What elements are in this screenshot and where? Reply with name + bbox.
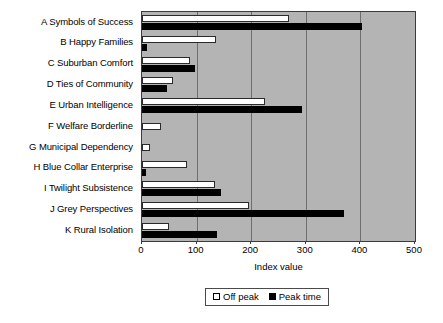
bar-group [142,137,415,158]
x-tick-label: 100 [188,245,204,255]
category-label: F Welfare Borderline [0,115,137,136]
bar-peak [142,210,344,217]
x-tick-label: 200 [242,245,258,255]
x-tick-label: 300 [297,245,313,255]
bar-peak [142,106,302,113]
x-axis-title: Index value [141,261,416,272]
bar-group [142,179,415,200]
bar-peak [142,44,147,51]
bar-group [142,220,415,241]
category-label: E Urban Intelligence [0,94,137,115]
bar-offpeak [142,223,169,230]
category-label: C Suburban Comfort [0,53,137,74]
category-label: D Ties of Community [0,73,137,94]
x-tick-label: 500 [406,245,422,255]
bar-offpeak [142,15,289,22]
bar-peak [142,23,362,30]
bar-offpeak [142,161,187,168]
bar-group [142,33,415,54]
category-label: I Twilight Subsistence [0,178,137,199]
bar-offpeak [142,57,190,64]
bar-group [142,95,415,116]
bar-peak [142,85,167,92]
bar-peak [142,231,217,238]
bar-chart: A Symbols of SuccessB Happy FamiliesC Su… [0,0,443,323]
category-label: B Happy Families [0,32,137,53]
bar-offpeak [142,123,161,130]
bar-offpeak [142,202,249,209]
legend-swatch-offpeak-icon [213,293,220,300]
category-axis: A Symbols of SuccessB Happy FamiliesC Su… [0,11,137,240]
legend-label: Off peak [223,292,259,302]
plot-area [141,11,416,242]
bar-offpeak [142,98,265,105]
legend-entry: Off peak [213,292,259,302]
bar-peak [142,189,221,196]
category-label: K Rural Isolation [0,219,137,240]
bar-offpeak [142,36,216,43]
bar-group [142,74,415,95]
category-label: G Municipal Dependency [0,136,137,157]
x-tick-label: 0 [138,245,143,255]
bar-group [142,158,415,179]
bar-offpeak [142,77,173,84]
category-label: J Grey Perspectives [0,198,137,219]
bar-offpeak [142,144,150,151]
legend-label: Peak time [279,292,321,302]
bars-layer [142,12,415,241]
legend-swatch-peak-icon [269,293,276,300]
category-label: H Blue Collar Enterprise [0,157,137,178]
bar-group [142,54,415,75]
category-label: A Symbols of Success [0,11,137,32]
bar-group [142,199,415,220]
bar-group [142,12,415,33]
legend-entry: Peak time [269,292,321,302]
bar-offpeak [142,181,215,188]
x-axis: 0100200300400500 [141,241,416,257]
chart-legend: Off peakPeak time [205,288,329,306]
bar-group [142,116,415,137]
bar-peak [142,65,195,72]
bar-peak [142,169,146,176]
x-tick-label: 400 [351,245,367,255]
